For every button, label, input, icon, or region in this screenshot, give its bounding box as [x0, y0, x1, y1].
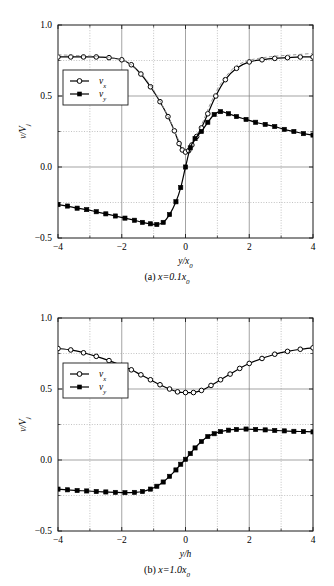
marker-open-circle [158, 382, 163, 387]
panel-a: −4−20241.00.50.0−0.5y/x0v/Vjvxvy(a) x=0.… [0, 0, 334, 293]
marker-filled-square [311, 133, 315, 137]
marker-open-circle [148, 377, 153, 382]
marker-filled-square [148, 222, 152, 226]
marker-open-circle [107, 358, 112, 363]
marker-filled-square [199, 129, 203, 133]
marker-filled-square [234, 114, 238, 118]
marker-open-circle [247, 361, 252, 366]
marker-filled-square [183, 457, 187, 461]
marker-filled-square [179, 462, 183, 466]
marker-open-circle [56, 55, 61, 60]
x-tick-label: −2 [117, 535, 127, 545]
y-tick-label: 1.0 [40, 313, 52, 323]
marker-open-circle [191, 390, 196, 395]
y-tick-label: 0.5 [40, 384, 52, 394]
marker-filled-square [56, 487, 60, 491]
figure-root: −4−20241.00.50.0−0.5y/x0v/Vjvxvy(a) x=0.… [0, 0, 334, 586]
marker-filled-square [199, 439, 203, 443]
marker-filled-square [113, 490, 117, 494]
marker-filled-square [56, 203, 60, 207]
marker-open-circle [209, 383, 214, 388]
marker-filled-square [234, 427, 238, 431]
marker-filled-square [132, 490, 136, 494]
marker-filled-square [155, 222, 159, 226]
y-tick-label: −0.5 [35, 233, 52, 243]
marker-open-circle [167, 387, 172, 392]
marker-open-circle [81, 350, 86, 355]
marker-filled-square [263, 122, 267, 126]
marker-filled-square [206, 120, 210, 124]
marker-filled-square [161, 220, 165, 224]
x-tick-label: 2 [247, 242, 252, 252]
marker-filled-square [311, 430, 315, 434]
marker-open-circle [129, 368, 134, 373]
marker-filled-square [244, 117, 248, 121]
marker-filled-square [193, 446, 197, 450]
legend-marker-open-circle [77, 79, 82, 84]
y-tick-label: −0.5 [35, 526, 52, 536]
marker-open-circle [298, 347, 303, 352]
marker-filled-square [167, 212, 171, 216]
marker-filled-square [75, 488, 79, 492]
y-tick-label: 0.0 [40, 455, 52, 465]
marker-filled-square [282, 429, 286, 433]
marker-open-circle [56, 346, 61, 351]
marker-filled-square [148, 487, 152, 491]
marker-filled-square [113, 214, 117, 218]
marker-filled-square [273, 124, 277, 128]
marker-filled-square [123, 216, 127, 220]
marker-filled-square [183, 165, 187, 169]
marker-filled-square [188, 452, 192, 456]
y-axis-label: v/Vj [18, 124, 31, 139]
marker-filled-square [301, 132, 305, 136]
x-tick-label: 2 [247, 535, 252, 545]
marker-filled-square [254, 427, 258, 431]
x-tick-label: −4 [53, 242, 63, 252]
marker-filled-square [94, 210, 98, 214]
marker-open-circle [213, 94, 218, 99]
marker-filled-square [292, 429, 296, 433]
marker-open-circle [260, 356, 265, 361]
marker-open-circle [272, 352, 277, 357]
marker-open-circle [94, 354, 99, 359]
marker-open-circle [228, 372, 233, 377]
marker-filled-square [226, 428, 230, 432]
marker-filled-square [282, 127, 286, 131]
legend: vxvy [63, 70, 128, 105]
y-tick-label: 0.5 [40, 91, 52, 101]
y-axis-label: v/Vj [18, 417, 31, 432]
marker-filled-square [218, 430, 222, 434]
marker-filled-square [212, 112, 216, 116]
marker-filled-square [174, 200, 178, 204]
marker-open-circle [94, 55, 99, 60]
marker-filled-square [188, 146, 192, 150]
x-tick-label: −4 [53, 535, 63, 545]
x-tick-label: 4 [311, 535, 316, 545]
marker-filled-square [292, 129, 296, 133]
marker-filled-square [85, 489, 89, 493]
marker-filled-square [75, 206, 79, 210]
marker-open-circle [175, 390, 180, 395]
panel-caption: (b) x=1.0x0 [144, 564, 190, 579]
panel-b: −4−20241.00.50.0−0.5y/hv/Vjvxvy(b) x=1.0… [0, 293, 334, 586]
x-tick-label: 4 [311, 242, 316, 252]
marker-open-circle [285, 349, 290, 354]
x-axis-label: y/h [179, 549, 192, 559]
marker-open-circle [298, 55, 303, 60]
legend: vxvy [63, 363, 128, 398]
marker-filled-square [273, 428, 277, 432]
marker-open-circle [311, 55, 316, 60]
marker-filled-square [174, 468, 178, 472]
x-tick-label: 0 [183, 242, 188, 252]
y-tick-label: 0.0 [40, 162, 52, 172]
legend-marker-filled-square [77, 92, 82, 97]
marker-filled-square [167, 474, 171, 478]
marker-filled-square [254, 120, 258, 124]
marker-filled-square [140, 489, 144, 493]
marker-filled-square [212, 432, 216, 436]
marker-open-circle [218, 377, 223, 382]
marker-filled-square [65, 488, 69, 492]
marker-filled-square [226, 112, 230, 116]
y-tick-label: 1.0 [40, 20, 52, 30]
panel-caption: (a) x=0.1x0 [144, 271, 190, 286]
